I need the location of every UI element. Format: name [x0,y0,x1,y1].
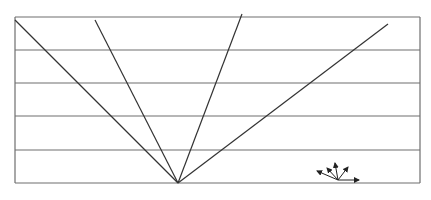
arrow-icon [317,171,338,180]
ray-line [178,14,242,183]
rays-from-origin [15,14,388,183]
ray-line [15,20,178,183]
frame-box [15,17,420,183]
ray-line [178,24,388,183]
horizontal-lines [15,17,420,183]
direction-arrows-icon [317,163,359,180]
arrow-icon [338,167,348,180]
ray-line [95,20,178,183]
ray-diagram [0,0,431,200]
